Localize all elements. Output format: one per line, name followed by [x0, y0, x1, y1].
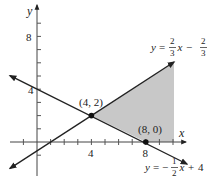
equation-lower-line: y = − 1 2 x + 4 [144, 156, 204, 178]
eq2-coef-den: 2 [172, 168, 177, 178]
x-tick-label-8: 8 [143, 147, 149, 159]
y-tick-label-4: 4 [28, 84, 34, 96]
svg-text:=: = [159, 41, 165, 53]
eq2-var: x [179, 161, 185, 173]
eq2-coef-num: 1 [172, 156, 177, 166]
equation-upper-line: y = 2 3 x − 2 3 [150, 36, 207, 58]
eq1-op: − [186, 41, 192, 53]
svg-text:−: − [162, 161, 168, 173]
point-label-8-0: (8, 0) [138, 123, 162, 136]
svg-text:=: = [153, 161, 159, 173]
eq1-prefix: y [150, 41, 156, 53]
graph-canvas: y x 8 4 4 8 (4, 2) (8, 0) y = 2 3 x − 2 … [0, 0, 218, 179]
eq2-op: + [188, 161, 194, 173]
eq1-coef-num: 2 [170, 36, 175, 46]
x-tick-label-4: 4 [88, 147, 94, 159]
point-label-4-2: (4, 2) [79, 96, 103, 109]
vertex-point-8-0 [143, 139, 149, 145]
vertex-point-4-2 [89, 113, 95, 119]
svg-text:y: y [144, 161, 150, 173]
eq1-const-den: 3 [201, 48, 206, 58]
x-axis-label: x [178, 126, 185, 140]
eq1-const-num: 2 [201, 36, 206, 46]
eq1-coef-den: 3 [170, 48, 175, 58]
y-tick-label-8: 8 [26, 31, 32, 43]
eq2-const: 4 [198, 161, 204, 173]
eq1-var: x [177, 41, 183, 53]
y-axis-label: y [26, 4, 33, 18]
